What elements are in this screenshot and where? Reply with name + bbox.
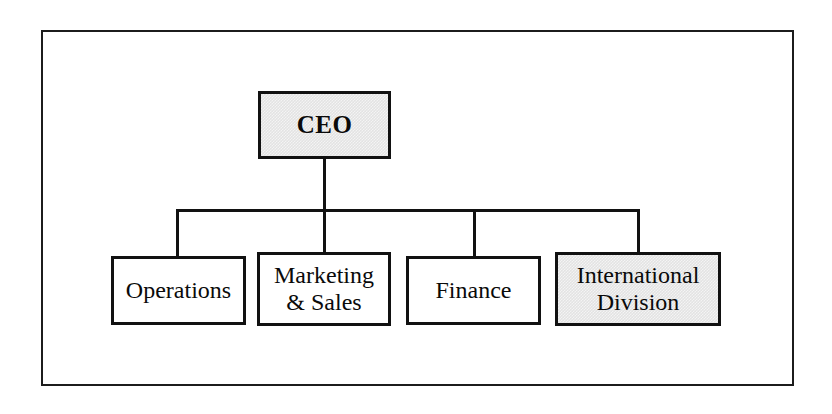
- org-node-operations[interactable]: Operations: [111, 256, 246, 325]
- org-chart-canvas: CEO Operations Marketing & Sales Finance…: [0, 0, 832, 414]
- org-node-marketing-sales-label: Marketing & Sales: [270, 262, 378, 317]
- org-node-operations-label: Operations: [122, 277, 235, 304]
- org-node-ceo[interactable]: CEO: [258, 91, 391, 159]
- org-node-finance-label: Finance: [432, 277, 516, 304]
- org-node-finance[interactable]: Finance: [406, 256, 541, 325]
- diagram-outer-frame: [41, 30, 794, 386]
- org-node-international-division[interactable]: International Division: [555, 252, 721, 326]
- org-node-international-division-label: International Division: [573, 262, 704, 317]
- org-node-ceo-label: CEO: [293, 111, 357, 140]
- org-node-marketing-sales[interactable]: Marketing & Sales: [257, 252, 391, 326]
